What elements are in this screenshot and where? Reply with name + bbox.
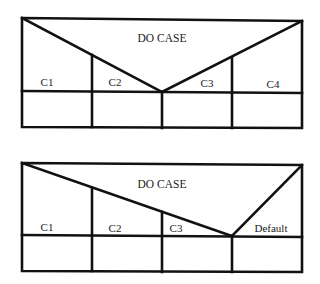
case-label-2: C2 bbox=[109, 76, 122, 88]
diagram-title: DO CASE bbox=[138, 178, 187, 190]
diagram-title: DO CASE bbox=[138, 32, 187, 44]
do-case-diagram-1: DO CASE C1 C2 C3 C4 bbox=[22, 18, 302, 128]
do-case-diagram-2: DO CASE C1 C2 C3 Default bbox=[22, 163, 302, 272]
case-label-4: C4 bbox=[267, 78, 280, 90]
case-label-3: C3 bbox=[201, 77, 214, 89]
case-label-1: C1 bbox=[41, 76, 54, 88]
case-label-1: C1 bbox=[41, 221, 54, 233]
default-case-label: Default bbox=[255, 222, 288, 234]
case-label-3: C3 bbox=[170, 222, 183, 234]
left-diagonal bbox=[22, 163, 232, 236]
case-structure-diagrams: DO CASE C1 C2 C3 C4 DO CASE C1 C2 C3 Def… bbox=[0, 0, 320, 284]
case-label-2: C2 bbox=[109, 222, 122, 234]
